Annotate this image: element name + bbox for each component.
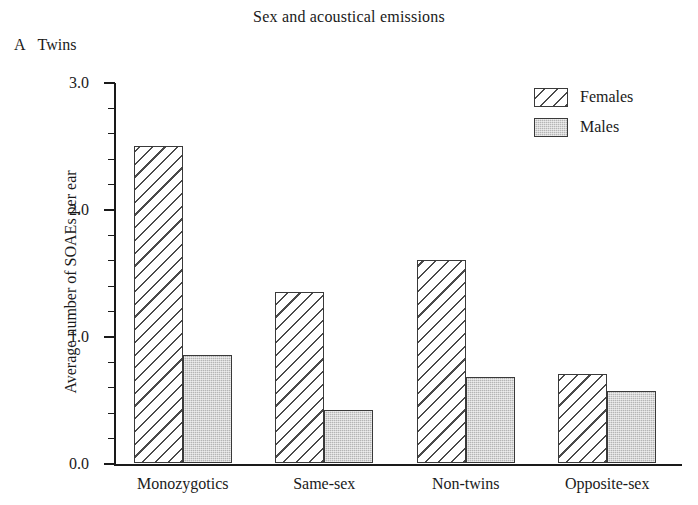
y-axis-minor-tick bbox=[108, 108, 115, 109]
y-axis-minor-tick bbox=[108, 184, 115, 185]
y-axis-tick-label: 2.0 bbox=[69, 202, 89, 218]
y-axis-title: Average number of SOAEs per ear bbox=[62, 82, 80, 482]
chart-figure: Sex and acoustical emissions ATwins Aver… bbox=[0, 0, 698, 505]
y-axis-minor-tick bbox=[108, 133, 115, 134]
x-axis-label-non-twins: Non-twins bbox=[432, 475, 500, 493]
y-axis-minor-tick bbox=[108, 438, 115, 439]
y-axis-major-tick bbox=[104, 82, 115, 84]
x-axis-label-opposite-sex: Opposite-sex bbox=[565, 475, 649, 493]
y-axis-line bbox=[114, 83, 116, 465]
chart-legend: Females Males bbox=[534, 82, 633, 142]
y-axis-minor-tick bbox=[108, 387, 115, 388]
legend-item-males: Males bbox=[534, 112, 633, 142]
legend-label-males: Males bbox=[580, 118, 619, 136]
x-axis-label-monozygotics: Monozygotics bbox=[137, 475, 229, 493]
y-axis-minor-tick bbox=[108, 311, 115, 312]
legend-swatch-females-icon bbox=[534, 88, 568, 107]
chart-title: Sex and acoustical emissions bbox=[0, 8, 698, 26]
y-axis-minor-tick bbox=[108, 286, 115, 287]
y-axis-tick-label: 0.0 bbox=[69, 456, 89, 472]
bar-opposite-sex-males bbox=[607, 391, 656, 463]
x-axis-line bbox=[114, 464, 682, 466]
y-axis-tick-label: 1.0 bbox=[69, 329, 89, 345]
bar-same-sex-males bbox=[324, 410, 373, 463]
legend-label-females: Females bbox=[580, 88, 633, 106]
y-axis-minor-tick bbox=[108, 413, 115, 414]
y-axis-tick-label: 3.0 bbox=[69, 75, 89, 91]
y-axis-minor-tick bbox=[108, 260, 115, 261]
legend-item-females: Females bbox=[534, 82, 633, 112]
panel-label-text: Twins bbox=[38, 36, 77, 53]
y-axis-major-tick bbox=[104, 463, 115, 465]
bar-non-twins-females bbox=[417, 260, 466, 463]
y-axis-major-tick bbox=[104, 209, 115, 211]
y-axis-minor-tick bbox=[108, 235, 115, 236]
y-axis-minor-tick bbox=[108, 159, 115, 160]
panel-letter: A bbox=[14, 36, 26, 53]
legend-swatch-males-icon bbox=[534, 118, 568, 137]
panel-label: ATwins bbox=[14, 36, 76, 54]
bar-non-twins-males bbox=[466, 377, 515, 463]
y-axis-minor-tick bbox=[108, 362, 115, 363]
bar-opposite-sex-females bbox=[558, 374, 607, 463]
bar-monozygotics-females bbox=[134, 146, 183, 464]
x-axis-label-same-sex: Same-sex bbox=[293, 475, 355, 493]
y-axis-major-tick bbox=[104, 336, 115, 338]
bar-same-sex-females bbox=[275, 292, 324, 463]
bar-monozygotics-males bbox=[183, 355, 232, 463]
